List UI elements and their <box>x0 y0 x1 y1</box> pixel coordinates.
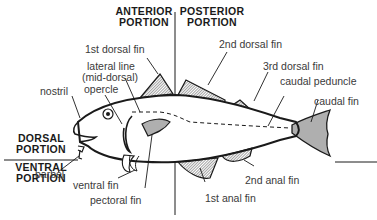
dorsal-portion-heading: DORSAL PORTION <box>8 133 74 155</box>
pointer-nostril <box>72 96 80 118</box>
label-caudal-fin: caudal fin <box>314 96 359 107</box>
fish-illustration <box>0 0 377 220</box>
posterior-line-2: PORTION <box>176 17 248 28</box>
label-first-anal-fin: 1st anal fin <box>205 193 256 204</box>
label-opercle: opercle <box>84 84 118 95</box>
pointer-second-dorsal <box>208 52 227 85</box>
pointer-second-anal <box>244 160 254 166</box>
caudal-fin <box>292 110 330 156</box>
label-caudal-peduncle: caudal peduncle <box>280 76 356 87</box>
label-nostril: nostril <box>40 86 68 97</box>
anterior-line-2: PORTION <box>112 17 176 28</box>
ventral-fin <box>122 155 134 172</box>
pointer-third-dorsal <box>254 72 268 101</box>
pointer-first-dorsal <box>147 58 158 74</box>
label-second-dorsal-fin: 2nd dorsal fin <box>219 39 282 50</box>
label-barbel: barbel <box>35 169 64 180</box>
label-second-anal-fin: 2nd anal fin <box>245 175 299 186</box>
label-ventral-fin: ventral fin <box>73 180 119 191</box>
anterior-portion-heading: ANTERIOR PORTION <box>112 6 176 28</box>
label-third-dorsal-fin: 3rd dorsal fin <box>263 61 324 72</box>
dorsal-line-2: PORTION <box>8 144 74 155</box>
first-anal-fin <box>178 158 218 178</box>
posterior-portion-heading: POSTERIOR PORTION <box>176 6 248 28</box>
lower-jaw <box>78 146 84 152</box>
label-first-dorsal-fin: 1st dorsal fin <box>85 44 145 55</box>
label-pectoral-fin: pectoral fin <box>90 195 141 206</box>
label-lateral-line-note: (mid-dorsal) <box>82 72 138 83</box>
